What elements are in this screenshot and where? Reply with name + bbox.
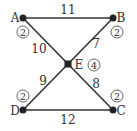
graph-diagram: 111079812 A2B2E4D2C2	[0, 0, 137, 131]
node-label-D: D	[10, 104, 20, 118]
node-label-C: C	[116, 104, 125, 118]
node-label-B: B	[117, 11, 126, 25]
node-weight-B: 2	[114, 27, 120, 38]
edge-weight-DC: 12	[60, 113, 75, 127]
edge-weight-AE: 10	[31, 42, 46, 56]
node-B	[110, 15, 117, 22]
node-label-A: A	[10, 11, 20, 25]
edge-weight-EC: 8	[92, 77, 100, 91]
edge-weight-AB: 11	[60, 3, 75, 17]
node-weight-C: 2	[114, 91, 120, 102]
edge-AE	[23, 18, 68, 64]
node-label-E: E	[75, 58, 84, 72]
node-weight-A: 2	[20, 27, 26, 38]
node-A	[20, 15, 27, 22]
node-D	[20, 107, 27, 114]
edge-weight-DE: 9	[39, 74, 47, 88]
node-weight-E: 4	[91, 60, 97, 71]
node-E	[65, 61, 72, 68]
edge-weight-EB: 7	[92, 37, 100, 51]
nodes: A2B2E4D2C2	[10, 11, 126, 118]
node-weight-D: 2	[20, 91, 26, 102]
